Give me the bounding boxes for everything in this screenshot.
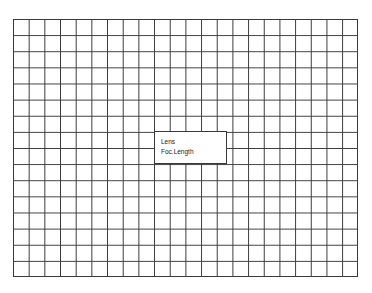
lens-info-box: Lens Foc.Length	[154, 131, 227, 164]
focal-length-label: Foc.Length	[161, 147, 226, 157]
lens-label: Lens	[161, 137, 226, 147]
